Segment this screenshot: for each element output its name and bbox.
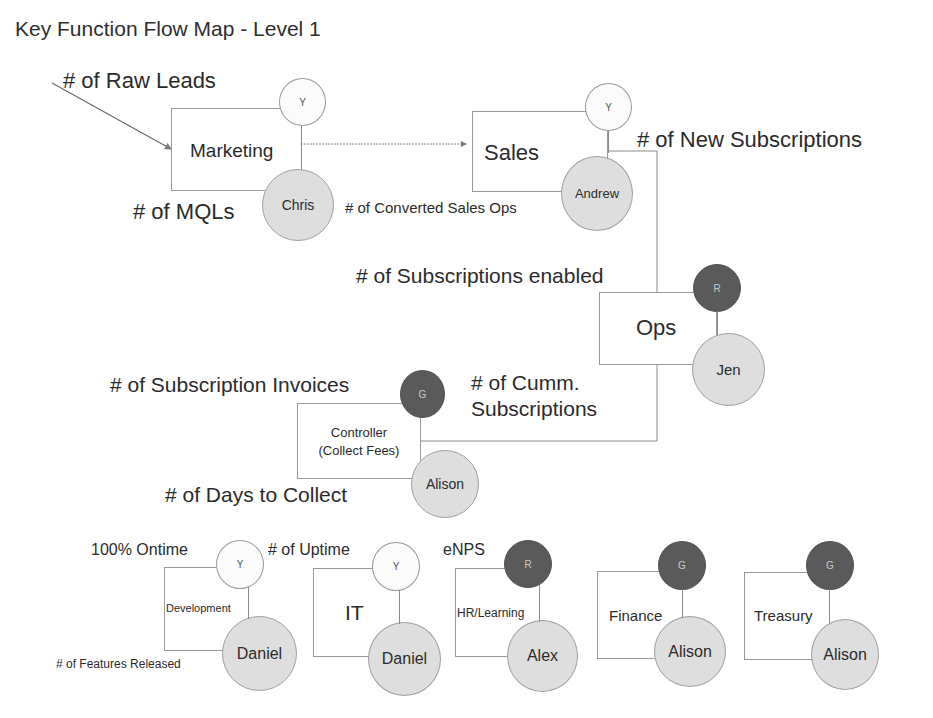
status-badge-treasury: G (806, 541, 854, 590)
connector (682, 589, 683, 618)
metric-new-subscriptions: # of New Subscriptions (637, 127, 862, 153)
metric-subscriptions-enabled: # of Subscriptions enabled (356, 264, 604, 288)
metric-subscription-invoices: # of Subscription Invoices (110, 373, 349, 397)
status-badge-finance: G (658, 541, 706, 590)
connector (829, 589, 830, 621)
avatar-controller-owner[interactable]: Alison (411, 450, 479, 518)
metric-uptime: # of Uptime (268, 541, 350, 559)
status-badge-it: Y (372, 542, 420, 591)
connector (608, 131, 609, 153)
avatar-sales-owner[interactable]: Andrew (561, 156, 633, 231)
function-label-finance: Finance (609, 607, 662, 624)
metric-converted-sales-ops: # of Converted Sales Ops (345, 199, 517, 216)
status-badge-sales: Y (585, 83, 632, 131)
avatar-development-owner[interactable]: Daniel (222, 616, 297, 691)
status-badge-hr: R (504, 540, 552, 588)
connector (539, 587, 540, 622)
status-badge-development: Y (216, 540, 264, 589)
function-label-marketing: Marketing (190, 140, 273, 162)
function-label-controller: Controller (Collect Fees) (297, 424, 421, 460)
avatar-it-owner[interactable]: Daniel (368, 622, 441, 696)
function-label-it: IT (345, 601, 364, 625)
function-label-development: Development (166, 602, 231, 614)
avatar-ops-owner[interactable]: Jen (692, 333, 765, 406)
function-label-hr: HR/Learning (457, 606, 524, 620)
function-label-sales: Sales (484, 140, 539, 166)
avatar-marketing-owner[interactable]: Chris (262, 169, 334, 241)
metric-raw-leads: # of Raw Leads (63, 68, 216, 94)
metric-mqls: # of MQLs (133, 199, 234, 225)
avatar-treasury-owner[interactable]: Alison (811, 619, 879, 690)
metric-enps: eNPS (443, 541, 485, 559)
connector (717, 311, 718, 335)
metric-ontime: 100% Ontime (91, 541, 188, 559)
metric-cumm-subscriptions: # of Cumm. Subscriptions (471, 370, 597, 422)
metric-features-released: # of Features Released (56, 657, 181, 671)
connector (301, 125, 302, 170)
metric-days-to-collect: # of Days to Collect (165, 483, 347, 507)
avatar-hr-owner[interactable]: Alex (507, 620, 578, 692)
function-label-ops: Ops (636, 315, 676, 341)
status-badge-marketing: Y (279, 78, 326, 126)
function-label-treasury: Treasury (754, 607, 813, 624)
connector (248, 587, 249, 619)
status-badge-ops: R (693, 264, 741, 312)
avatar-finance-owner[interactable]: Alison (654, 616, 726, 687)
connector (399, 590, 400, 624)
status-badge-controller: G (400, 370, 445, 418)
